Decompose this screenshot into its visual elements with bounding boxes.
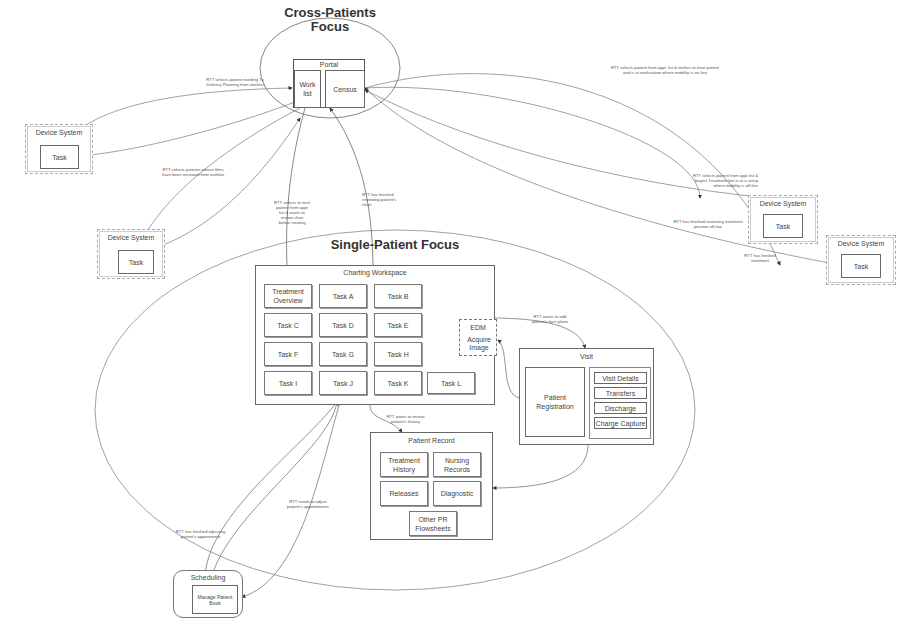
cross-patients-title-line1: Cross-Patients xyxy=(270,6,390,20)
cross-patients-title: Cross-Patients Focus xyxy=(270,6,390,34)
task-e[interactable]: Task E xyxy=(374,313,422,337)
task-k[interactable]: Task K xyxy=(374,371,422,395)
task-i[interactable]: Task I xyxy=(264,371,312,395)
other-pr-flowsheets[interactable]: Other PR Flowsheets xyxy=(409,511,457,536)
charge-capture[interactable]: Charge Capture xyxy=(594,417,647,429)
note-treat-online: RTT selects patient from appt. list & wi… xyxy=(580,65,750,75)
visit-box: Visit Patient Registration Visit Details… xyxy=(519,348,654,445)
single-patient-title: Single-Patient Focus xyxy=(320,238,470,252)
visit-details[interactable]: Visit Details xyxy=(594,372,647,384)
device-system-label: Device System xyxy=(827,240,895,247)
cross-patients-title-line2: Focus xyxy=(270,20,390,34)
transfers[interactable]: Transfers xyxy=(594,387,647,399)
device-system-1: Device System Task xyxy=(25,124,93,174)
nursing-records[interactable]: Nursing Records xyxy=(433,452,481,477)
census-box[interactable]: Census xyxy=(325,70,365,108)
note-treat-offline: RTT selects patient from appt list & beg… xyxy=(668,173,758,188)
discharge[interactable]: Discharge xyxy=(594,402,647,414)
task-g[interactable]: Task G xyxy=(319,342,367,366)
task-l[interactable]: Task L xyxy=(427,372,475,394)
device-system-label: Device System xyxy=(26,129,92,136)
note-finished-reviewing-position: RTT has finished reviewing treatment pos… xyxy=(668,219,748,229)
patient-registration[interactable]: Patient Registration xyxy=(525,367,585,437)
scheduling-box: Scheduling Manage Patient Book xyxy=(173,570,243,618)
device-task[interactable]: Task xyxy=(118,250,154,274)
device-system-4: Device System Task xyxy=(826,235,896,285)
portal: Portal Work list Census xyxy=(293,59,365,108)
patient-record-label: Patient Record xyxy=(371,437,492,444)
task-treatment-overview[interactable]: Treatment Overview xyxy=(264,284,312,308)
device-system-label: Device System xyxy=(98,234,164,241)
device-system-2: Device System Task xyxy=(97,229,165,279)
device-task[interactable]: Task xyxy=(841,254,881,278)
charting-workspace-label: Charting Workspace xyxy=(256,269,494,276)
portal-label: Portal xyxy=(294,61,364,68)
device-task[interactable]: Task xyxy=(763,214,803,238)
releases[interactable]: Releases xyxy=(380,481,428,506)
note-select-reviewed-films: RTT selects patients whose films have be… xyxy=(148,167,238,177)
note-review-chart-before-treating: RTT selects to next patient from appt li… xyxy=(272,200,312,225)
task-a[interactable]: Task A xyxy=(319,284,367,308)
note-finished-reviewing-chart: RTT has finished reviewing patient's cha… xyxy=(362,192,412,207)
visit-label: Visit xyxy=(520,353,653,360)
note-add-face-photo: RTT wants to add patient's face photo xyxy=(520,314,580,324)
task-j[interactable]: Task J xyxy=(319,371,367,395)
note-review-history: RTT wants to review patient's history xyxy=(378,414,433,424)
note-finished-treatment: RTT has finished treatment xyxy=(735,253,785,263)
task-d[interactable]: Task D xyxy=(319,313,367,337)
patient-record-box: Patient Record Treatment History Nursing… xyxy=(370,432,493,540)
edm-box[interactable]: EDM Acquire Image xyxy=(459,319,497,356)
worklist-box[interactable]: Work list xyxy=(294,70,321,108)
scheduling-label: Scheduling xyxy=(174,574,242,581)
device-task[interactable]: Task xyxy=(40,145,79,169)
note-adjust-appointments: RTT needs to adjust patient's appointmen… xyxy=(278,499,338,509)
task-f[interactable]: Task F xyxy=(264,342,312,366)
visit-items-group: Visit Details Transfers Discharge Charge… xyxy=(589,367,651,439)
note-finished-adjusting-appointment: RTT has finished adjusting patient's app… xyxy=(168,529,233,539)
task-b[interactable]: Task B xyxy=(374,284,422,308)
edm-label: EDM xyxy=(460,324,496,331)
device-system-label: Device System xyxy=(749,200,817,207)
manage-patient-book[interactable]: Manage Patient Book xyxy=(192,585,238,614)
task-h[interactable]: Task H xyxy=(374,342,422,366)
diagnostic[interactable]: Diagnostic xyxy=(433,481,481,506)
acquire-image-label: Acquire Image xyxy=(466,336,492,352)
treatment-history[interactable]: Treatment History xyxy=(380,452,428,477)
task-c[interactable]: Task C xyxy=(264,313,312,337)
device-system-3: Device System Task xyxy=(748,195,818,244)
note-select-for-delivery-planning: RTT selects patient needing Tx Delivery … xyxy=(180,77,290,87)
